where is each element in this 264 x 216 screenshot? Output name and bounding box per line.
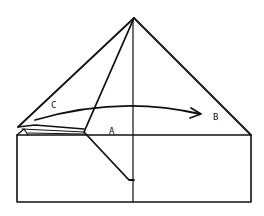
fold-arrow-curve — [35, 106, 200, 120]
left-layer-edge-bottom — [17, 129, 28, 135]
left-layer-edge-top — [18, 125, 84, 129]
label-a: A — [109, 127, 114, 136]
label-b: B — [213, 113, 218, 122]
origami-diagram — [0, 0, 264, 216]
left-inner-edge — [28, 133, 84, 134]
left-layer-edge-mid — [22, 129, 84, 132]
label-c: C — [51, 101, 56, 110]
base-rectangle — [17, 135, 251, 202]
